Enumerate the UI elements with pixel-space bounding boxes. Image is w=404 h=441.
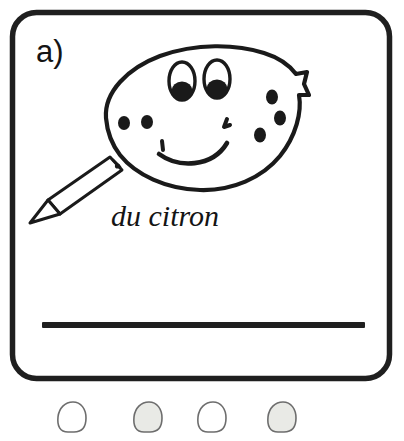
freckle-left-2	[141, 115, 153, 129]
left-dimple-tick	[162, 141, 163, 150]
item-label: a)	[36, 34, 64, 69]
freckle-right-1	[266, 90, 278, 105]
left-eye-pupil	[172, 82, 193, 101]
bubble-4[interactable]	[268, 402, 296, 432]
bubble-1[interactable]	[58, 402, 86, 432]
worksheet-page: a)	[0, 0, 404, 441]
caption-text: du citron	[111, 199, 219, 232]
answer-write-line[interactable]	[42, 322, 365, 328]
right-eye-pupil	[207, 80, 228, 99]
freckle-right-3	[254, 128, 266, 143]
freckle-left-1	[118, 116, 130, 130]
pencil-end-dot	[115, 163, 120, 168]
bubble-3[interactable]	[198, 402, 226, 432]
freckle-right-2	[274, 111, 286, 126]
worksheet-canvas: a)	[0, 0, 404, 441]
bubble-2[interactable]	[134, 402, 162, 432]
